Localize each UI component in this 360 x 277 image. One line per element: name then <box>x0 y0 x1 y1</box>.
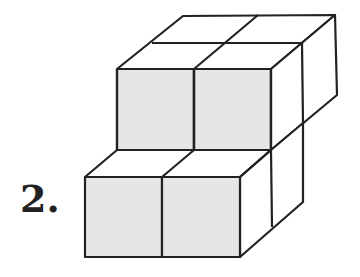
lower-left-front-face <box>85 177 162 257</box>
upper-left-front-face <box>117 69 194 150</box>
figure-container: 2. <box>0 0 360 277</box>
cube-diagram <box>0 0 360 277</box>
upper-right-front-face <box>194 69 271 150</box>
lower-right-front-face <box>162 177 240 257</box>
